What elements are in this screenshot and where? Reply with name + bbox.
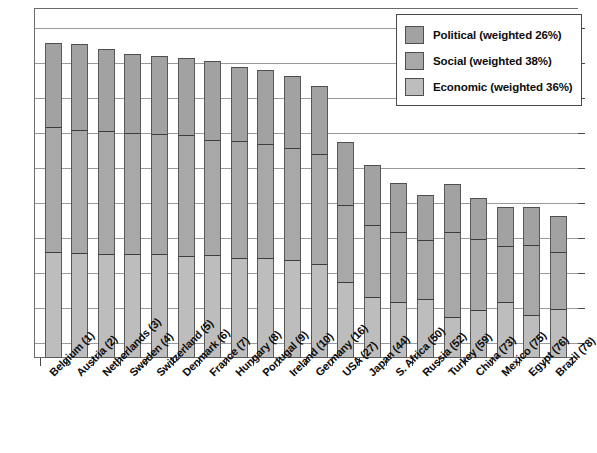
legend-swatch-economic	[405, 78, 424, 96]
legend-item-economic[interactable]: Economic (weighted 36%)	[405, 74, 573, 100]
legend-item-political[interactable]: Political (weighted 26%)	[405, 22, 573, 48]
legend-swatch-political	[405, 26, 424, 44]
chart-legend: Political (weighted 26%) Social (weighte…	[396, 14, 582, 106]
legend-label-economic: Economic (weighted 36%)	[433, 81, 573, 93]
legend-swatch-social	[405, 52, 424, 70]
legend-item-social[interactable]: Social (weighted 38%)	[405, 48, 573, 74]
legend-label-political: Political (weighted 26%)	[433, 29, 562, 41]
legend-label-social: Social (weighted 38%)	[433, 55, 552, 67]
